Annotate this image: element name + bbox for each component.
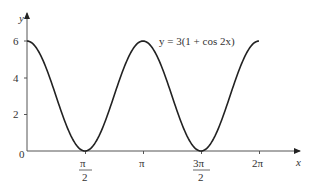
x-axis-label: x	[295, 156, 301, 168]
chart: 6 4 2 0 y x π 2 π 3π 2 2π y = 3(1 + cos …	[0, 0, 310, 185]
y-tick-label-6: 6	[13, 35, 19, 47]
x-tick-label-2pi: 2π	[252, 157, 264, 169]
x-tick-label-3pi-half-num: 3π	[193, 157, 205, 169]
x-tick-label-pi-half-num: π	[80, 157, 86, 169]
function-curve	[27, 41, 259, 151]
x-tick-label-pi: π	[139, 157, 145, 169]
y-axis-label: y	[18, 12, 24, 24]
y-tick-label-2: 2	[13, 108, 19, 120]
x-tick-label-pi-half-den: 2	[82, 171, 88, 183]
equation-label: y = 3(1 + cos 2x)	[159, 35, 235, 48]
origin-label: 0	[19, 148, 25, 160]
x-tick-label-3pi-half-den: 2	[198, 171, 204, 183]
y-tick-label-4: 4	[13, 72, 19, 84]
